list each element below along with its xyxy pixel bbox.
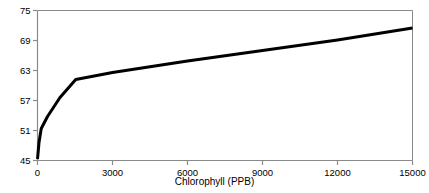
chart-figure: 455157636975 03000600090001200015000 Chl…	[0, 0, 429, 193]
y-tick-label: 51	[0, 126, 31, 136]
x-tick-label: 15000	[399, 168, 425, 178]
x-tick-label: 0	[35, 168, 40, 178]
x-tick-label: 12000	[324, 168, 350, 178]
chart-plot-area	[0, 0, 429, 193]
x-tick-label: 3000	[102, 168, 123, 178]
y-tick-label: 75	[0, 6, 31, 16]
y-tick-label: 69	[0, 36, 31, 46]
y-tick-label: 45	[0, 156, 31, 166]
x-axis-title: Chlorophyll (PPB)	[0, 177, 429, 187]
x-tick-label: 9000	[252, 168, 273, 178]
y-tick-label: 57	[0, 96, 31, 106]
chart-background	[0, 0, 429, 193]
y-tick-label: 63	[0, 66, 31, 76]
